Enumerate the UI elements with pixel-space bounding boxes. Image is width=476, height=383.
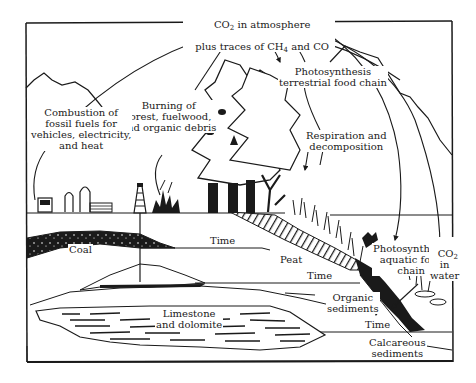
coal-seam xyxy=(27,231,175,258)
label-co2-in-water: CO2in water xyxy=(429,237,460,281)
label-time-1: Time xyxy=(210,235,235,246)
label-atmosphere-line1: CO2 in atmosphere xyxy=(214,19,310,30)
text-plus-traces: plus traces of CH xyxy=(195,41,283,52)
text-in-atmosphere: in atmosphere xyxy=(234,19,310,30)
label-calcareous: Calcareous sediments xyxy=(368,337,427,359)
text-and-co: and CO xyxy=(288,41,329,52)
label-atmosphere-line2: plus traces of CH4 and CO xyxy=(195,41,329,52)
label-organic-sediments: Organic sediments xyxy=(326,292,380,314)
label-burning: Burning of forest, fuelwood, and organic… xyxy=(120,100,217,133)
label-respiration: Respiration and decomposition xyxy=(305,130,388,152)
label-photosynthesis-terrestrial: Photosynthesis terrestrial food chain xyxy=(278,66,388,88)
text-sub-2: 2 xyxy=(454,253,458,261)
oil-derrick-icon xyxy=(134,183,146,282)
text-co: CO xyxy=(214,19,230,30)
bedrock-line xyxy=(27,361,453,362)
organic-sediments-line xyxy=(30,286,330,305)
carbon-cycle-diagram xyxy=(0,0,476,383)
label-combustion: Combustion of fossil fuels for vehicles,… xyxy=(30,107,132,151)
label-atmosphere: CO2 in atmosphere plus traces of CH4 and… xyxy=(183,8,335,52)
fish-icon xyxy=(415,291,446,305)
text-co: CO xyxy=(438,248,454,259)
text-in-water: in water xyxy=(430,259,459,281)
factory-icon xyxy=(38,187,112,212)
label-coal: Coal xyxy=(68,244,93,255)
label-peat: Peat xyxy=(280,254,302,265)
label-time-3: Time xyxy=(365,319,390,330)
label-time-2: Time xyxy=(307,270,332,281)
burning-debris-icon xyxy=(152,180,180,213)
label-limestone: Limestone and dolomite xyxy=(155,308,223,330)
